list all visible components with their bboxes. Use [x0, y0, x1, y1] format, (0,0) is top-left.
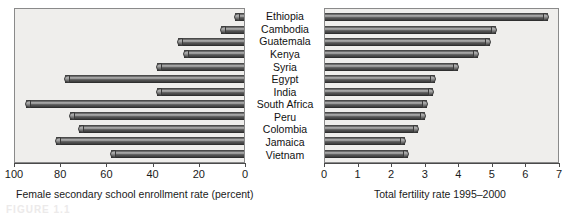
axis-tick — [60, 163, 61, 167]
bar-india — [157, 88, 244, 96]
axis-tick — [14, 163, 15, 167]
bar-egypt — [325, 75, 435, 83]
plot-area-fertility — [324, 8, 559, 163]
axis-tick-label: 80 — [54, 168, 66, 181]
bar-series-enrollment — [15, 9, 244, 162]
bar-row — [325, 63, 558, 71]
bar-row — [15, 50, 244, 58]
x-axis-title-fertility: Total fertility rate 1995–2000 — [374, 188, 506, 201]
bar-guatemala — [325, 38, 490, 46]
bar-end-cap — [234, 13, 240, 21]
category-label-kenya: Kenya — [246, 50, 324, 58]
bar-syria — [157, 63, 244, 71]
bar-row — [325, 75, 558, 83]
axis-tick — [391, 163, 392, 167]
bar-peru — [70, 112, 244, 120]
bar-kenya — [325, 50, 478, 58]
axis-tick-label: 3 — [422, 168, 428, 181]
bar-row — [15, 125, 244, 133]
bar-peru — [325, 112, 425, 120]
plot-area-enrollment — [14, 8, 245, 163]
bar-end-cap — [491, 26, 497, 34]
axis-tick — [245, 163, 246, 167]
bar-end-cap — [156, 88, 162, 96]
bar-end-cap — [428, 88, 434, 96]
bar-vietnam — [111, 150, 244, 158]
axis-tick-label: 6 — [522, 168, 528, 181]
bar-row — [325, 125, 558, 133]
axis-tick-label: 20 — [193, 168, 205, 181]
bar-vietnam — [325, 150, 408, 158]
chart-panel-enrollment — [14, 8, 245, 163]
axis-tick — [199, 163, 200, 167]
category-label-south-africa: South Africa — [246, 100, 324, 108]
bar-end-cap — [400, 137, 406, 145]
axis-tick — [358, 163, 359, 167]
axis-tick-label: 40 — [146, 168, 158, 181]
bar-end-cap — [543, 13, 549, 21]
bar-kenya — [184, 50, 244, 58]
axis-tick — [106, 163, 107, 167]
category-label-ethiopia: Ethiopia — [246, 12, 324, 20]
bar-ethiopia — [325, 13, 548, 21]
axis-tick-label: 0 — [242, 168, 248, 181]
bar-end-cap — [473, 50, 479, 58]
bar-row — [325, 88, 558, 96]
axis-tick-label: 5 — [489, 168, 495, 181]
bar-row — [325, 26, 558, 34]
bar-row — [15, 13, 244, 21]
axis-tick-label: 0 — [321, 168, 327, 181]
category-label-peru: Peru — [246, 113, 324, 121]
bar-end-cap — [156, 63, 162, 71]
bar-row — [15, 100, 244, 108]
bar-end-cap — [69, 112, 75, 120]
axis-tick-label: 7 — [556, 168, 562, 181]
category-label-vietnam: Vietnam — [246, 151, 324, 159]
bar-end-cap — [430, 75, 436, 83]
bar-row — [15, 75, 244, 83]
bar-ethiopia — [235, 13, 244, 21]
category-label-cambodia: Cambodia — [246, 25, 324, 33]
bar-series-fertility — [325, 9, 558, 162]
bar-jamaica — [56, 137, 244, 145]
bar-end-cap — [413, 125, 419, 133]
x-axis-fertility: 01234567 — [324, 163, 559, 189]
bar-end-cap — [183, 50, 189, 58]
bar-cambodia — [221, 26, 244, 34]
bar-row — [15, 26, 244, 34]
bar-colombia — [79, 125, 244, 133]
bar-row — [325, 100, 558, 108]
bar-row — [325, 50, 558, 58]
bar-row — [15, 150, 244, 158]
axis-tick — [559, 163, 560, 167]
axis-tick-label: 60 — [100, 168, 112, 181]
bar-end-cap — [177, 38, 183, 46]
axis-tick-label: 4 — [455, 168, 461, 181]
bar-colombia — [325, 125, 418, 133]
axis-tick — [324, 163, 325, 167]
axis-tick-label: 100 — [5, 168, 23, 181]
bar-row — [15, 38, 244, 46]
axis-tick — [492, 163, 493, 167]
x-axis-enrollment: 100806040200 — [14, 163, 245, 189]
axis-tick-label: 2 — [388, 168, 394, 181]
bar-row — [325, 38, 558, 46]
axis-line — [14, 163, 245, 164]
figure-caption-remnant: FIGURE 1.1 — [6, 204, 70, 215]
category-label-egypt: Egypt — [246, 75, 324, 83]
bar-south-africa — [26, 100, 244, 108]
axis-tick — [525, 163, 526, 167]
bar-jamaica — [325, 137, 405, 145]
bar-row — [15, 112, 244, 120]
bar-end-cap — [110, 150, 116, 158]
bar-end-cap — [485, 38, 491, 46]
x-axis-title-enrollment: Female secondary school enrollment rate … — [16, 188, 254, 201]
bar-end-cap — [78, 125, 84, 133]
axis-tick — [458, 163, 459, 167]
bar-row — [15, 63, 244, 71]
bar-cambodia — [325, 26, 496, 34]
bar-row — [325, 137, 558, 145]
bar-end-cap — [422, 100, 428, 108]
bar-end-cap — [55, 137, 61, 145]
bar-end-cap — [453, 63, 459, 71]
